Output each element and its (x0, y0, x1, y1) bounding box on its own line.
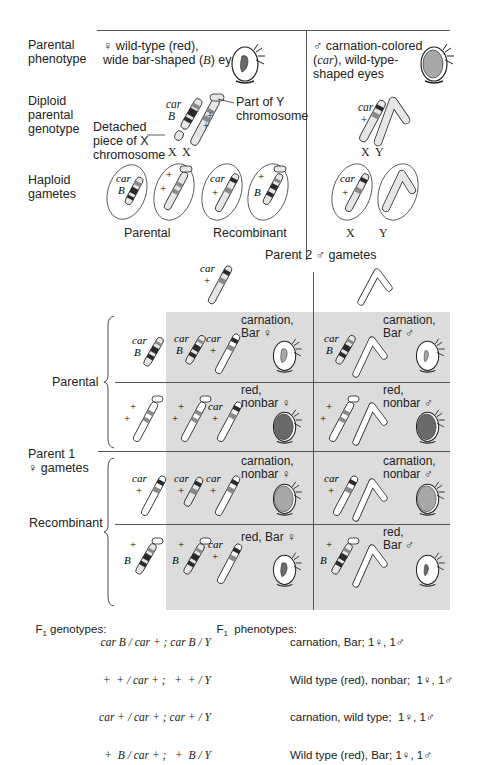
cell-genotype-plusB-carplus: + B car + (170, 536, 246, 588)
svg-text:car: car (174, 472, 189, 484)
female-phenotype-text: ♀ wild-type (red), wide bar-shaped (B) e… (103, 39, 245, 67)
svg-text:car: car (116, 172, 131, 184)
row-gamete-plus-b: + B (122, 536, 166, 582)
phenotype-line: Wild type (red), Bar; 1♀, 1♂ (290, 749, 453, 762)
svg-text:+: + (212, 186, 218, 198)
punnett-column-divider (313, 272, 314, 610)
fly-red-bar-eye-icon (228, 40, 270, 86)
annotation-detached-x: Detached piece of X chromosome (93, 120, 165, 162)
f1-genotypes-list: car B / car + ; car B / Y + + / car + ; … (97, 611, 211, 765)
cell-genotype-plusB-y: + B (318, 536, 390, 588)
cell-genotype-carplus-y: car + (322, 470, 388, 520)
svg-text:+: + (258, 170, 264, 182)
svg-text:B: B (124, 554, 131, 566)
cell-genotype-plusplus-y: + + (318, 394, 390, 446)
svg-text:+: + (160, 182, 166, 194)
genotype-line: + + / car + ; + + / Y (97, 674, 211, 687)
gamete-parental-plus-plus: + + (150, 160, 198, 224)
svg-text:+: + (172, 412, 178, 424)
y-label: Y (375, 145, 384, 160)
punnett-col-x-chromosome: car + (198, 262, 238, 308)
cell-genotype-carB-carplus: car B car + (172, 328, 242, 378)
y-chromosome (375, 98, 409, 144)
svg-text:+: + (178, 484, 184, 496)
parent1-gametes-header: Parent 1 ♀ gametes (28, 447, 89, 475)
svg-text:car: car (132, 334, 147, 346)
female-symbol: ♀ (103, 39, 112, 53)
svg-text:+: + (326, 538, 332, 550)
annotation-part-of-y: Part of Y chromosome (236, 95, 308, 123)
svg-text:car: car (324, 332, 339, 344)
svg-text:+: + (124, 412, 130, 424)
svg-text:+: + (178, 538, 184, 550)
svg-text:+: + (326, 400, 332, 412)
fly-red-nonbar-female-icon (270, 404, 306, 448)
x-label: X (168, 145, 177, 160)
svg-text:car: car (206, 332, 221, 344)
svg-text:car: car (174, 332, 189, 344)
svg-text:B: B (118, 184, 125, 196)
allele-plus: + (202, 120, 210, 133)
fly-carnation-bar-female-icon (270, 334, 306, 376)
svg-text:+: + (136, 484, 142, 496)
gamete-x-label: X (346, 226, 355, 241)
gamete-group-recombinant: Recombinant (213, 226, 287, 240)
cell-phenotype-male: red, Bar ♂ (383, 526, 414, 552)
svg-text:B: B (254, 186, 261, 198)
svg-text:B: B (134, 346, 141, 358)
x-label: X (182, 145, 191, 160)
gamete-recombinant-car-plus: car + (198, 160, 246, 224)
fly-carnation-nonbar-male-icon (413, 476, 449, 520)
leader-line-x (147, 134, 167, 138)
f1-genotypes-label: F1 genotypes: (29, 610, 106, 640)
svg-text:+: + (320, 412, 326, 424)
row-group-recombinant: Recombinant (29, 516, 103, 530)
x-label: X (361, 145, 370, 160)
phenotype-line: carnation, wild type; 1♀, 1♂ (290, 711, 453, 724)
punnett-col-y-chromosome (355, 266, 395, 306)
fly-carnation-bar-male-icon (413, 334, 449, 376)
cell-genotype-carB-y: car B (322, 328, 388, 378)
punnett-row-line-2 (98, 451, 450, 452)
leader-line-y (218, 98, 236, 104)
brace-recombinant (104, 457, 116, 607)
phenotype-line: Wild type (red), nonbar; 1♀, 1♂ (290, 674, 453, 687)
svg-text:car: car (210, 172, 225, 184)
svg-text:B: B (320, 554, 327, 566)
label-parental-phenotype: Parental phenotype (28, 38, 86, 66)
svg-text:+: + (342, 186, 348, 198)
allele-b: B (168, 110, 175, 123)
phenotype-line: carnation, Bar; 1♀, 1♂ (290, 636, 453, 649)
fly-red-bar-female-icon (270, 548, 306, 590)
row-group-parental: Parental (52, 375, 99, 389)
gamete-male-y (374, 160, 422, 224)
cell-genotype-plusplus-carplus: + + car + (170, 394, 246, 446)
label-diploid-genotype: Diploid parental genotype (28, 94, 79, 136)
svg-text:B: B (172, 554, 179, 566)
row-gamete-car-plus: car + (130, 470, 166, 520)
gamete-recombinant-plus-b: + B (244, 160, 292, 224)
svg-text:+: + (130, 538, 136, 550)
svg-text:B: B (176, 344, 183, 356)
svg-text:car: car (340, 172, 355, 184)
f1-phenotypes-label: F1 phenotypes: (210, 610, 297, 640)
svg-text:+: + (178, 400, 184, 412)
fly-red-nonbar-male-icon (413, 404, 449, 448)
svg-text:+: + (166, 168, 172, 180)
male-symbol: ♂ (313, 39, 322, 53)
svg-text:+: + (328, 484, 334, 496)
male-phenotype-text: ♂ carnation-colored (car), wild-type- sh… (313, 39, 422, 81)
genotype-line: + B / car + ; + B / Y (97, 749, 211, 762)
svg-text:car: car (208, 538, 223, 550)
cell-phenotype-female: red, Bar ♀ (241, 531, 296, 544)
svg-text:+: + (130, 400, 136, 412)
svg-text:car: car (206, 472, 221, 484)
row-gamete-plus-plus: + + (122, 394, 166, 446)
row-gamete-car-b: car B (130, 330, 166, 374)
fly-carnation-nonbar-female-icon (270, 476, 306, 520)
parent2-gametes-header: Parent 2 ♂ gametes (265, 248, 377, 262)
gamete-group-parental: Parental (124, 226, 171, 240)
svg-text:car: car (200, 262, 215, 274)
svg-text:+: + (212, 412, 218, 424)
svg-text:+: + (212, 550, 218, 562)
